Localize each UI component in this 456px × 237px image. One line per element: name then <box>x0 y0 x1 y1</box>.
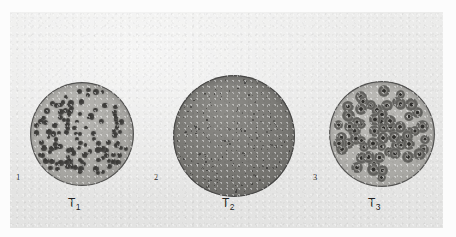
plaque <box>259 179 261 181</box>
figure-plaque-assay: 1 2 3 T1 T2 T3 <box>0 0 456 237</box>
plaque <box>219 164 220 165</box>
plaque <box>191 122 192 123</box>
plaque <box>68 100 74 106</box>
caption-t1-sub: 1 <box>76 202 81 212</box>
plaque <box>195 99 196 100</box>
plaque <box>113 105 117 109</box>
plaque <box>352 117 362 127</box>
plaque <box>96 158 100 162</box>
plaque <box>78 132 82 136</box>
plaque <box>195 128 197 130</box>
plaque <box>256 156 257 157</box>
plaque <box>253 148 254 149</box>
plaque <box>222 156 223 157</box>
plaque <box>378 85 390 97</box>
plaque <box>232 164 233 165</box>
plaque <box>254 150 255 151</box>
plaque <box>221 110 223 112</box>
plaque <box>262 145 264 147</box>
plaque <box>207 127 209 129</box>
petri-dish-t2 <box>173 75 295 197</box>
plaque <box>187 134 188 135</box>
plaque <box>279 138 280 139</box>
plaque <box>48 166 53 171</box>
plaque <box>208 180 209 181</box>
plaque <box>420 135 429 144</box>
plaque <box>102 103 108 109</box>
plaque <box>263 159 265 161</box>
plaque <box>252 119 254 121</box>
plaque <box>351 162 362 173</box>
plaque <box>229 141 230 142</box>
plaque <box>248 94 250 96</box>
plaque <box>231 180 232 181</box>
plaque <box>230 129 231 130</box>
caption-t3-base: T <box>368 196 376 210</box>
plaque <box>195 164 196 165</box>
plaque <box>253 113 255 115</box>
plaque <box>226 154 227 155</box>
plaque <box>245 173 246 174</box>
plaque <box>191 130 192 131</box>
plaque <box>210 180 211 181</box>
plaque <box>54 137 59 142</box>
plaque <box>191 131 192 132</box>
plaque <box>226 150 227 151</box>
plaque <box>259 110 260 111</box>
plaque <box>367 163 380 176</box>
plaque <box>71 150 76 155</box>
plaque <box>216 173 217 174</box>
plaque <box>106 140 111 145</box>
plaque <box>252 87 253 88</box>
plaque <box>235 191 237 193</box>
plaque <box>233 92 234 93</box>
plaque <box>201 168 202 169</box>
plaque <box>205 161 207 163</box>
plaque <box>197 163 198 164</box>
plaque <box>66 155 70 159</box>
plaque <box>244 191 245 192</box>
plaque <box>403 138 415 150</box>
plaque <box>271 140 272 141</box>
plaque <box>190 106 192 108</box>
plaque <box>263 165 264 166</box>
plaque <box>212 166 213 167</box>
plaque <box>204 93 206 95</box>
plaque <box>77 146 81 150</box>
plaque <box>198 128 200 130</box>
plaque <box>238 139 239 140</box>
plaque <box>266 131 268 133</box>
plaque <box>69 106 74 111</box>
plaque <box>111 159 116 164</box>
plaque <box>258 117 259 118</box>
petri-dish-t3 <box>329 81 435 187</box>
plaque <box>183 158 184 159</box>
plaque <box>49 159 54 164</box>
plaque <box>47 135 51 139</box>
caption-t2-sub: 2 <box>230 202 235 212</box>
plaque <box>184 132 185 133</box>
dish-rim <box>173 75 295 197</box>
plaque <box>86 88 90 92</box>
plaque <box>55 167 60 172</box>
plaque <box>66 118 71 123</box>
plaque <box>204 179 205 180</box>
plaque <box>55 162 59 166</box>
plaque <box>214 93 215 94</box>
plaque <box>285 129 286 130</box>
plaque <box>355 103 367 115</box>
plaque <box>410 126 420 136</box>
plaque <box>52 123 57 128</box>
plaque <box>64 160 69 165</box>
plaque <box>333 138 345 150</box>
panel-index-1: 1 <box>16 172 20 182</box>
plaque <box>116 141 120 145</box>
plaque <box>259 167 260 168</box>
plaque <box>270 124 271 125</box>
plaque <box>177 140 179 142</box>
plaque <box>253 167 255 169</box>
plaque <box>248 143 249 144</box>
plaque <box>218 159 220 161</box>
plaque <box>198 154 199 155</box>
plaque <box>229 143 231 145</box>
